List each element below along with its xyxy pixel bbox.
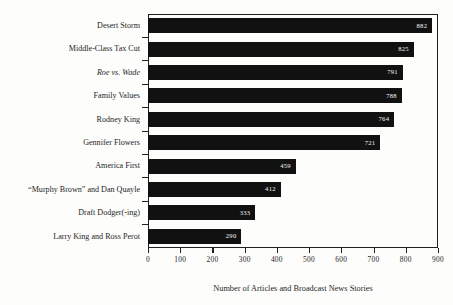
value-axis-tick-label: 0 (146, 255, 150, 264)
bar-row: 764 (148, 108, 438, 131)
bar-row: 333 (148, 201, 438, 224)
value-axis-tick-label: 700 (368, 255, 380, 264)
bar-row: 825 (148, 37, 438, 60)
value-axis: 0100200300400500600700800900 (148, 248, 438, 278)
value-axis-tick-label: 100 (174, 255, 186, 264)
bar: 290 (148, 229, 241, 244)
category-label: America First (95, 154, 140, 177)
category-label: Desert Storm (97, 14, 140, 37)
category-axis-labels: Desert StormMiddle-Class Tax CutRoe vs. … (0, 14, 146, 248)
value-axis-tick-label: 300 (239, 255, 251, 264)
value-axis-tick-label: 800 (400, 255, 412, 264)
bar-row: 791 (148, 61, 438, 84)
bar-value-label: 721 (365, 139, 376, 146)
bar-value-label: 412 (265, 186, 276, 193)
value-axis-tick (277, 248, 278, 253)
category-label: Larry King and Ross Perot (53, 225, 140, 248)
value-axis-tick (438, 248, 439, 253)
value-axis-tick (406, 248, 407, 253)
category-label: Family Values (94, 84, 140, 107)
bar-row: 412 (148, 178, 438, 201)
value-axis-tick-label: 900 (432, 255, 444, 264)
bar-value-label: 788 (386, 92, 397, 99)
value-axis-tick (212, 248, 213, 253)
value-axis-tick-label: 400 (271, 255, 283, 264)
bar-row: 721 (148, 131, 438, 154)
bar-chart-figure: Desert StormMiddle-Class Tax CutRoe vs. … (0, 0, 453, 305)
bar: 459 (148, 159, 296, 174)
bar: 788 (148, 88, 402, 103)
value-axis-tick (341, 248, 342, 253)
bar: 412 (148, 182, 281, 197)
category-label: Roe vs. Wade (97, 61, 140, 84)
category-label: Gennifer Flowers (83, 131, 140, 154)
value-axis-tick-label: 200 (206, 255, 218, 264)
x-axis-title: Number of Articles and Broadcast News St… (148, 284, 438, 293)
bar-row: 459 (148, 154, 438, 177)
bar-value-label: 825 (398, 46, 409, 53)
category-label: Rodney King (97, 108, 140, 131)
bar-value-label: 791 (387, 69, 398, 76)
bar: 721 (148, 135, 380, 150)
bar: 825 (148, 42, 414, 57)
bar-value-label: 459 (280, 163, 291, 170)
category-label: “Murphy Brown” and Dan Quayle (28, 178, 140, 201)
bar-row: 882 (148, 14, 438, 37)
value-axis-tick-label: 500 (303, 255, 315, 264)
value-axis-tick (309, 248, 310, 253)
bar-rows: 882825791788764721459412333290 (148, 14, 438, 248)
bar-value-label: 290 (226, 233, 237, 240)
category-label: Middle-Class Tax Cut (69, 37, 140, 60)
value-axis-tick-label: 600 (335, 255, 347, 264)
bar-row: 788 (148, 84, 438, 107)
bar: 764 (148, 112, 394, 127)
value-axis-tick (148, 248, 149, 253)
bar: 791 (148, 65, 403, 80)
value-axis-tick (180, 248, 181, 253)
value-axis-tick (374, 248, 375, 253)
value-axis-tick (245, 248, 246, 253)
bar: 882 (148, 18, 432, 33)
bar-value-label: 333 (240, 209, 251, 216)
bar-value-label: 764 (379, 116, 390, 123)
category-label: Draft Dodger(-ing) (78, 201, 140, 224)
bar-row: 290 (148, 225, 438, 248)
bar-value-label: 882 (417, 22, 428, 29)
bar: 333 (148, 205, 255, 220)
